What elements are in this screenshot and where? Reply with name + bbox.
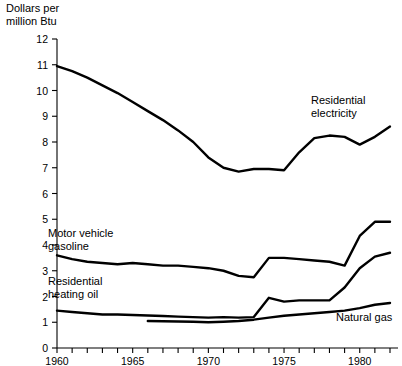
y-tick-label: 10 [36, 85, 48, 97]
x-tick-label: 1965 [121, 355, 145, 366]
chart-page: Dollars per million Btu 0123456789101112… [0, 0, 402, 366]
y-tick-label: 7 [42, 162, 48, 174]
x-axis: 19601965197019751980 [45, 348, 398, 366]
y-tick-label: 6 [42, 188, 48, 200]
series-label-residential-electricity: Residential electricity [311, 94, 365, 120]
y-tick-label: 9 [42, 110, 48, 122]
x-tick-label: 1975 [272, 355, 296, 366]
series-label-motor-vehicle-gasoline: Motor vehicle gasoline [48, 227, 113, 253]
y-tick-label: 8 [42, 136, 48, 148]
y-tick-label: 1 [42, 316, 48, 328]
x-tick-label: 1960 [45, 355, 69, 366]
x-tick-label: 1970 [197, 355, 221, 366]
x-tick-label: 1980 [348, 355, 372, 366]
series-label-residential-heating-oil: Residential heating oil [48, 275, 102, 301]
y-tick-label: 11 [37, 59, 48, 71]
y-tick-label: 0 [42, 342, 48, 354]
y-tick-label: 5 [42, 213, 48, 225]
y-tick-label: 12 [36, 33, 48, 45]
y-axis: 0123456789101112 [36, 33, 57, 354]
series-label-natural-gas: Natural gas [336, 311, 392, 324]
